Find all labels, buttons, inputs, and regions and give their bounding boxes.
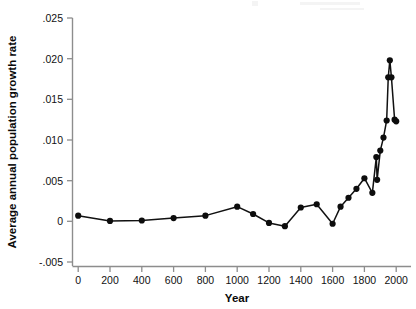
data-point bbox=[380, 134, 386, 140]
data-point bbox=[266, 220, 272, 226]
data-point bbox=[139, 217, 145, 223]
xtick-label-2: 400 bbox=[133, 274, 151, 286]
data-point bbox=[377, 147, 383, 153]
data-point bbox=[369, 190, 375, 196]
xtick-label-9: 1800 bbox=[353, 274, 377, 286]
data-point bbox=[234, 204, 240, 210]
xtick-label-5: 1000 bbox=[226, 274, 250, 286]
data-point bbox=[330, 221, 336, 227]
data-point bbox=[384, 117, 390, 123]
ytick-label-3: .010 bbox=[43, 134, 64, 146]
ytick-label-2: .015 bbox=[43, 93, 64, 105]
data-point bbox=[373, 154, 379, 160]
xtick-label-0: 0 bbox=[75, 274, 81, 286]
data-point bbox=[250, 211, 256, 217]
data-point bbox=[337, 204, 343, 210]
year-axis: 0 200 400 600 800 1000 1200 1400 1600 18… bbox=[73, 267, 412, 287]
data-point bbox=[171, 215, 177, 221]
ytick-label-4: .005 bbox=[43, 175, 64, 187]
scan-artifacts bbox=[252, 1, 364, 10]
data-point bbox=[345, 195, 351, 201]
x-axis-title: Year bbox=[225, 292, 250, 304]
ytick-label-1: .020 bbox=[43, 53, 64, 65]
data-point bbox=[387, 57, 393, 63]
series-group bbox=[75, 57, 399, 229]
xtick-label-6: 1200 bbox=[257, 274, 281, 286]
chart-figure: .025 .020 .015 .010 .005 0 -.005 Average… bbox=[0, 0, 416, 309]
data-point bbox=[75, 213, 81, 219]
population-growth-line-chart: .025 .020 .015 .010 .005 0 -.005 Average… bbox=[0, 0, 416, 309]
xtick-label-1: 200 bbox=[101, 274, 119, 286]
data-point bbox=[393, 118, 399, 124]
y-axis-title: Average annual population growth rate bbox=[6, 36, 18, 249]
ytick-label-6: -.005 bbox=[39, 256, 63, 268]
data-point bbox=[314, 201, 320, 207]
data-point bbox=[361, 175, 367, 181]
ytick-label-0: .025 bbox=[43, 12, 64, 24]
xtick-label-3: 600 bbox=[165, 274, 183, 286]
series-line-growth-rate bbox=[78, 60, 396, 226]
xtick-label-7: 1400 bbox=[289, 274, 313, 286]
data-point bbox=[374, 177, 380, 183]
growth-rate-axis: .025 .020 .015 .010 .005 0 -.005 bbox=[39, 12, 72, 268]
xtick-label-10: 2000 bbox=[385, 274, 409, 286]
data-point bbox=[202, 213, 208, 219]
series-markers-growth-rate bbox=[75, 57, 399, 229]
ytick-label-5: 0 bbox=[57, 215, 63, 227]
data-point bbox=[353, 186, 359, 192]
xtick-label-8: 1600 bbox=[321, 274, 345, 286]
data-point bbox=[298, 204, 304, 210]
xtick-label-4: 800 bbox=[197, 274, 215, 286]
data-point bbox=[388, 74, 394, 80]
data-point bbox=[282, 223, 288, 229]
data-point bbox=[107, 218, 113, 224]
